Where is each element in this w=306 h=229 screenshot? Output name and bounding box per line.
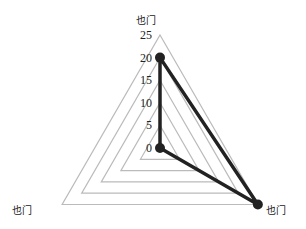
data-point-marker xyxy=(253,200,263,210)
radial-tick-labels: 0510152025 xyxy=(140,28,152,155)
tick-label: 15 xyxy=(140,73,152,87)
tick-label: 0 xyxy=(146,141,152,155)
radar-chart: 0510152025 也门也门也门 xyxy=(0,0,306,229)
tick-label: 10 xyxy=(140,96,152,110)
data-point-marker xyxy=(155,143,165,153)
category-label: 也门 xyxy=(136,14,156,26)
data-point-marker xyxy=(155,53,165,63)
tick-label: 20 xyxy=(140,51,152,65)
data-series xyxy=(155,53,263,210)
tick-label: 5 xyxy=(146,118,152,132)
category-label: 也门 xyxy=(266,204,286,216)
category-label: 也门 xyxy=(12,204,32,216)
tick-label: 25 xyxy=(140,28,152,42)
